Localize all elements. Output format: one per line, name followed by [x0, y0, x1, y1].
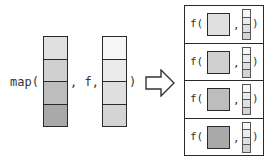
- close-paren-text: ): [252, 131, 259, 143]
- mini-vector-cell: [243, 100, 250, 108]
- element-square: [207, 13, 230, 36]
- input-vector-cell: [44, 60, 67, 83]
- f-open-text: f(: [190, 18, 203, 30]
- close-paren-text: ): [252, 56, 259, 68]
- result-panel: f( , ) f( , ) f( , ) f( , ): [184, 5, 264, 156]
- mini-vector-cell: [243, 55, 250, 63]
- mini-vector-cell: [243, 123, 250, 131]
- mini-vector-cell: [243, 108, 250, 115]
- comma-text: ,: [233, 133, 240, 145]
- input-vector-cell: [44, 37, 67, 60]
- mini-vector-cell: [243, 138, 250, 146]
- arg-vector-cell: [103, 105, 126, 127]
- comma-text: ,: [233, 95, 240, 107]
- result-row: f( , ): [185, 119, 263, 157]
- mini-vector: [242, 122, 251, 153]
- mini-vector-cell: [243, 145, 250, 152]
- input-vector-cell: [44, 82, 67, 105]
- comma-f-text: , f,: [70, 75, 99, 89]
- result-row: f( , ): [185, 6, 263, 44]
- arg-vector-cell: [103, 60, 126, 83]
- mini-vector: [242, 84, 251, 115]
- close-paren-text: ): [252, 18, 259, 30]
- arg-vector: [102, 36, 127, 127]
- mini-vector: [242, 47, 251, 78]
- element-square: [207, 51, 230, 74]
- mini-vector-cell: [243, 10, 250, 18]
- mini-vector-cell: [243, 130, 250, 138]
- map-open-text: map(: [10, 75, 39, 89]
- arg-vector-cell: [103, 82, 126, 105]
- f-open-text: f(: [190, 93, 203, 105]
- comma-text: ,: [233, 20, 240, 32]
- mini-vector-cell: [243, 33, 250, 40]
- result-row: f( , ): [185, 44, 263, 82]
- f-open-text: f(: [190, 131, 203, 143]
- mini-vector-cell: [243, 63, 250, 71]
- mini-vector-cell: [243, 25, 250, 33]
- f-open-text: f(: [190, 56, 203, 68]
- close-paren-text: ): [129, 75, 136, 89]
- mini-vector: [242, 9, 251, 40]
- input-vector-cell: [44, 105, 67, 127]
- element-square: [207, 88, 230, 111]
- element-square: [207, 126, 230, 149]
- mini-vector-cell: [243, 18, 250, 26]
- mini-vector-cell: [243, 48, 250, 56]
- comma-text: ,: [233, 58, 240, 70]
- mini-vector-cell: [243, 93, 250, 101]
- mini-vector-cell: [243, 85, 250, 93]
- arg-vector-cell: [103, 37, 126, 60]
- right-arrow-icon: [145, 69, 176, 97]
- close-paren-text: ): [252, 93, 259, 105]
- input-vector: [43, 36, 68, 127]
- mini-vector-cell: [243, 70, 250, 77]
- result-row: f( , ): [185, 81, 263, 119]
